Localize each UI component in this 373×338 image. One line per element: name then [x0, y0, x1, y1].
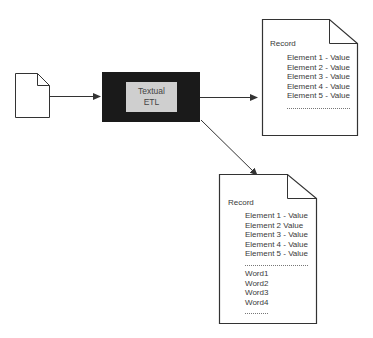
record-2-word-2: Word2 [245, 279, 268, 289]
record-1-element-3: Element 3 - Value [287, 72, 350, 82]
record-1-element-1: Element 1 - Value [287, 53, 350, 63]
record-1-element-5: Element 5 - Value [287, 91, 350, 101]
record-2-word-1: Word1 [245, 269, 268, 279]
record-1-element-4: Element 4 - Value [287, 82, 350, 92]
record-2-element-3: Element 3 - Value [245, 230, 308, 240]
record-2-word-3: Word3 [245, 288, 268, 298]
arrow-to-record-2 [201, 120, 257, 175]
record-1-ellipsis-divider [287, 108, 350, 109]
etl-label: Textual ETL [126, 82, 177, 112]
record-2-title: Record [228, 198, 254, 208]
record-1-element-2: Element 2 - Value [287, 63, 350, 73]
record-2-words-ellipsis [245, 313, 268, 314]
record-2-word-4: Word4 [245, 298, 268, 308]
record-2-element-2: Element 2 Value [245, 221, 303, 231]
record-1-title: Record [270, 39, 296, 49]
record-2-element-5: Element 5 - Value [245, 249, 308, 259]
source-document-icon [16, 74, 50, 118]
record-2-element-4: Element 4 - Value [245, 240, 308, 250]
record-2-element-1: Element 1 - Value [245, 211, 308, 221]
etl-label-line-1: Textual [138, 86, 165, 97]
etl-label-line-2: ETL [144, 97, 160, 108]
record-2-ellipsis-divider [245, 265, 308, 266]
diagram-canvas [0, 0, 373, 338]
